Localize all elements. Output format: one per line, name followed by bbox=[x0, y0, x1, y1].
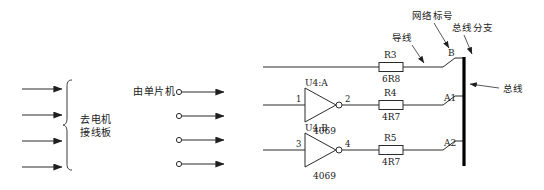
inverter-u4b-bubble bbox=[336, 147, 342, 153]
mcu-terminal-dot-3 bbox=[176, 137, 181, 142]
pin-number-4: 4 bbox=[345, 139, 350, 149]
resistor-r3-value: 6R8 bbox=[382, 74, 401, 84]
inverter-u4a-refdes: U4:A bbox=[305, 78, 328, 88]
inverter-u4b-body bbox=[305, 133, 336, 167]
net-label-b: B bbox=[448, 48, 455, 58]
motor-board-label-line1: 去电机 bbox=[80, 113, 112, 125]
pin-number-1: 1 bbox=[296, 94, 301, 104]
resistor-r4-value: 4R7 bbox=[382, 112, 401, 122]
pin-number-2: 2 bbox=[345, 94, 350, 104]
annotation-netlabel-label: 网络标号 bbox=[412, 10, 453, 21]
mcu-terminal-dot-4 bbox=[176, 161, 181, 166]
mcu-terminal-group bbox=[176, 89, 224, 166]
resistor-r3-refdes: R3 bbox=[384, 50, 397, 60]
annotation-wire-label: 导线 bbox=[392, 32, 413, 43]
inverter-u4a-bubble bbox=[336, 102, 342, 108]
annotation-busbranch-leader bbox=[464, 35, 472, 54]
bus-branch-top bbox=[443, 58, 464, 67]
row-middle: U4:A 4069 1 2 R4 4R7 A1 bbox=[263, 78, 464, 136]
motor-board-label-line2: 接线板 bbox=[80, 126, 112, 138]
mcu-terminal-dot-2 bbox=[176, 113, 181, 118]
resistor-r4-refdes: R4 bbox=[384, 88, 397, 98]
resistor-r5-body bbox=[379, 146, 403, 155]
pin-number-3: 3 bbox=[296, 139, 301, 149]
curly-brace bbox=[63, 80, 72, 170]
row-top: R3 6R8 B bbox=[263, 48, 464, 84]
resistor-r5-refdes: R5 bbox=[384, 133, 397, 143]
annotation-netlabel-leader bbox=[434, 23, 449, 48]
resistor-r5-value: 4R7 bbox=[382, 157, 401, 167]
net-label-a2: A2 bbox=[443, 138, 456, 148]
resistor-r4-body bbox=[379, 101, 403, 110]
mcu-source-label: 由单片机 bbox=[133, 85, 175, 97]
row-bottom: U4:B 4069 3 4 R5 4R7 A2 bbox=[263, 123, 464, 181]
left-arrow-group bbox=[22, 89, 62, 167]
annotation-wire-leader bbox=[412, 45, 424, 63]
resistor-r3-body bbox=[379, 63, 403, 72]
mcu-terminal-dot-1 bbox=[176, 89, 181, 94]
diagram-canvas: 去电机 接线板 由单片机 R3 6R8 bbox=[0, 0, 544, 190]
inverter-u4b-refdes: U4:B bbox=[305, 123, 328, 133]
net-label-a1: A1 bbox=[443, 93, 456, 103]
annotation-bus-leader bbox=[470, 84, 499, 88]
annotation-busbranch-label: 总线分支 bbox=[452, 22, 493, 33]
inverter-u4a-body bbox=[305, 88, 336, 122]
annotation-bus-label: 总线 bbox=[503, 83, 524, 94]
inverter-u4b-type: 4069 bbox=[313, 171, 336, 181]
circuit-diagram: 去电机 接线板 由单片机 R3 6R8 bbox=[0, 0, 544, 190]
